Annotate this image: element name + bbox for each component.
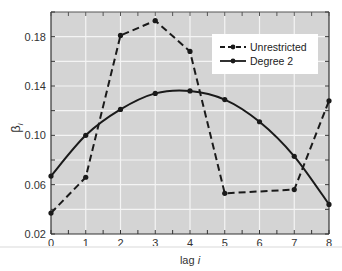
data-point bbox=[48, 210, 53, 215]
y-tick-label: 0.18 bbox=[25, 31, 46, 43]
y-tick-label: 0.14 bbox=[25, 80, 46, 92]
legend-label: Unrestricted bbox=[250, 41, 307, 53]
data-point bbox=[83, 175, 88, 180]
data-point bbox=[153, 18, 158, 23]
data-point bbox=[153, 91, 158, 96]
data-point bbox=[326, 202, 331, 207]
legend-label: Degree 2 bbox=[250, 55, 293, 67]
data-point bbox=[187, 49, 192, 54]
y-axis-label: βi bbox=[8, 123, 25, 132]
legend-marker-icon bbox=[231, 59, 236, 64]
data-point bbox=[187, 88, 192, 93]
y-tick-label: 0.10 bbox=[25, 129, 46, 141]
data-point bbox=[222, 191, 227, 196]
data-point bbox=[292, 154, 297, 159]
x-axis-label: lag i bbox=[180, 254, 201, 266]
data-point bbox=[222, 97, 227, 102]
y-tick-label: 0.06 bbox=[25, 179, 46, 191]
data-point bbox=[326, 98, 331, 103]
divider bbox=[0, 246, 342, 248]
legend-marker-icon bbox=[231, 45, 236, 50]
data-point bbox=[118, 107, 123, 112]
data-point bbox=[292, 187, 297, 192]
data-point bbox=[118, 33, 123, 38]
data-point bbox=[48, 173, 53, 178]
data-point bbox=[83, 133, 88, 138]
data-point bbox=[257, 119, 262, 124]
y-tick-label: 0.02 bbox=[25, 228, 46, 240]
legend: UnrestrictedDegree 2 bbox=[212, 34, 318, 74]
chart: 0123456780.020.060.100.140.18 Unrestrict… bbox=[0, 0, 342, 271]
